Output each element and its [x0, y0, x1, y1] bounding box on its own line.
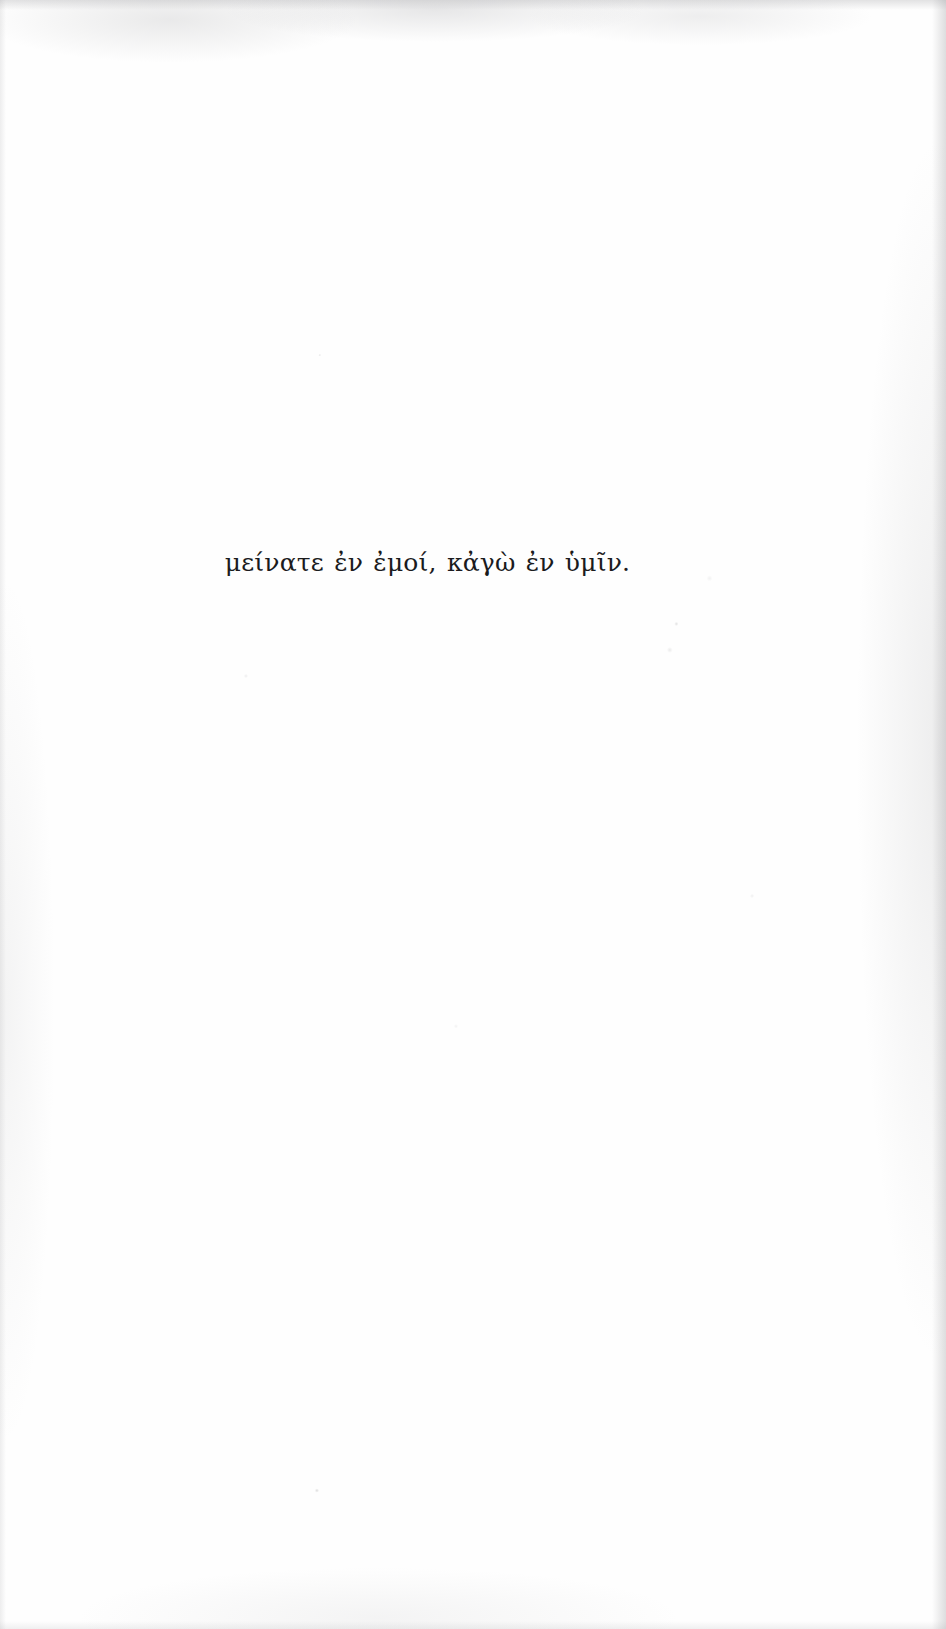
scan-edge-right	[932, 0, 946, 1629]
epigraph-block: μείνατε ἐν ἐμοί, κἀγὼ ἐν ὑμῖν.	[0, 548, 855, 578]
scan-edge-bottom	[0, 1621, 946, 1629]
paper-texture	[0, 0, 946, 1629]
scanned-page: μείνατε ἐν ἐμοί, κἀγὼ ἐν ὑμῖν.	[0, 0, 946, 1629]
epigraph-text: μείνατε ἐν ἐμοί, κἀγὼ ἐν ὑμῖν.	[225, 548, 631, 578]
scan-edge-top	[0, 0, 946, 10]
scan-edge-left	[0, 0, 6, 1629]
